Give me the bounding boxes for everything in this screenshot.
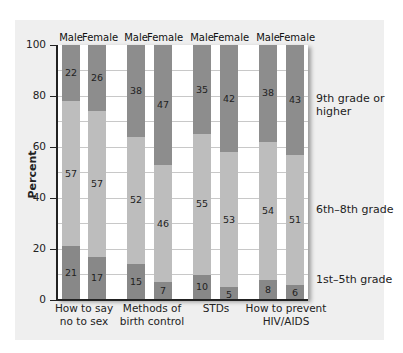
bar-segment: 38 [259, 45, 277, 142]
bar-value-label: 51 [286, 214, 304, 225]
bar-value-label: 22 [62, 67, 80, 78]
x-axis [56, 299, 308, 301]
legend-label: 9th grade or [316, 92, 385, 105]
bar-value-label: 8 [259, 284, 277, 295]
y-axis [56, 45, 58, 301]
bar-segment: 47 [154, 45, 172, 165]
group-label-female: Female [82, 32, 114, 43]
bar-segment: 57 [62, 101, 80, 246]
bar-value-label: 6 [286, 287, 304, 298]
y-tick [50, 249, 56, 250]
legend-label: higher [316, 105, 385, 118]
bar-value-label: 52 [127, 194, 145, 205]
bar-value-label: 46 [154, 218, 172, 229]
bar-value-label: 57 [62, 168, 80, 179]
y-axis-title: Percent [26, 145, 39, 205]
bar-segment: 6 [286, 285, 304, 300]
bar-segment: 46 [154, 165, 172, 282]
y-tick-label: 80 [16, 89, 46, 101]
category-label: Methods of birth control [112, 302, 192, 328]
bar-value-label: 43 [286, 94, 304, 105]
legend-1st-5th-grade: 1st–5th grade [316, 273, 392, 286]
stacked-bar: 105535 [193, 45, 211, 300]
bar-segment: 17 [88, 257, 106, 300]
bar-value-label: 17 [88, 272, 106, 283]
y-tick-label: 0 [16, 293, 46, 305]
bar-segment: 21 [62, 246, 80, 300]
stacked-bar: 85438 [259, 45, 277, 300]
group-label-male: Male [189, 32, 215, 43]
bar-value-label: 35 [193, 84, 211, 95]
y-tick [50, 198, 56, 199]
group-label-female: Female [213, 32, 245, 43]
y-tick [50, 45, 56, 46]
category-label-line: Methods of [112, 302, 192, 315]
category-label: How to prevent HIV/AIDS [244, 302, 328, 328]
bar-segment: 7 [154, 282, 172, 300]
bar-value-label: 15 [127, 276, 145, 287]
group-label-female: Female [279, 32, 311, 43]
y-tick [50, 300, 56, 301]
group-label-male: Male [255, 32, 281, 43]
bar-segment: 22 [62, 45, 80, 101]
category-label-line: no to sex [52, 315, 116, 328]
bar-value-label: 53 [220, 214, 238, 225]
category-label-line: HIV/AIDS [244, 315, 328, 328]
bar-value-label: 10 [193, 281, 211, 292]
group-label-male: Male [58, 32, 84, 43]
bar-value-label: 55 [193, 198, 211, 209]
bar-segment: 38 [127, 45, 145, 137]
bar-value-label: 42 [220, 93, 238, 104]
bar-segment: 54 [259, 142, 277, 280]
bar-segment: 42 [220, 45, 238, 152]
y-tick [50, 96, 56, 97]
bar-segment: 10 [193, 275, 211, 301]
bar-segment: 52 [127, 137, 145, 263]
bar-value-label: 54 [259, 205, 277, 216]
stacked-bar: 65143 [286, 45, 304, 300]
bar-segment: 53 [220, 152, 238, 287]
category-label: STDs [196, 302, 236, 315]
stacked-bar: 215722 [62, 45, 80, 300]
bar-value-label: 7 [154, 285, 172, 296]
category-label-line: How to prevent [244, 302, 328, 315]
group-label-male: Male [123, 32, 149, 43]
y-tick-label: 100 [16, 38, 46, 50]
bar-value-label: 21 [62, 267, 80, 278]
bar-segment: 43 [286, 45, 304, 155]
bar-value-label: 38 [127, 85, 145, 96]
bar-value-label: 47 [154, 99, 172, 110]
bar-value-label: 38 [259, 87, 277, 98]
category-label-line: STDs [196, 302, 236, 315]
stacked-bar: 74647 [154, 45, 172, 300]
stacked-bar: 155238 [127, 45, 145, 300]
bar-value-label: 57 [88, 178, 106, 189]
bar-segment: 51 [286, 155, 304, 285]
category-label: How to say no to sex [52, 302, 116, 328]
y-tick-label: 20 [16, 242, 46, 254]
bar-value-label: 26 [88, 72, 106, 83]
bar-segment: 8 [259, 280, 277, 300]
category-label-line: How to say [52, 302, 116, 315]
y-tick [50, 147, 56, 148]
bar-segment: 35 [193, 45, 211, 134]
bar-segment: 26 [88, 45, 106, 111]
group-label-female: Female [147, 32, 179, 43]
legend-6th-8th-grade: 6th–8th grade [316, 203, 394, 216]
category-label-line: birth control [112, 315, 192, 328]
bar-segment: 15 [127, 264, 145, 300]
bar-segment: 57 [88, 111, 106, 256]
stacked-bar: 55342 [220, 45, 238, 300]
bar-segment: 55 [193, 134, 211, 274]
stacked-bar: 175726 [88, 45, 106, 300]
legend-9th-grade: 9th grade or higher [316, 92, 385, 118]
